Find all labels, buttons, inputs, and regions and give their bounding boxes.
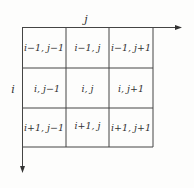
stencil-diagram: j i i−1, j−1 i−1, j i−1, j+1 i, j−1 i, j…	[0, 0, 194, 188]
cell-label: i, j−1	[34, 83, 60, 94]
cell-label: i, j	[81, 83, 93, 94]
cell-label: i−1, j−1	[24, 42, 64, 53]
cell-label: i+1, j−1	[24, 122, 64, 133]
i-axis-label: i	[11, 83, 15, 96]
cell-label: i+1, j	[74, 120, 100, 131]
cell-label: i−1, j+1	[111, 42, 151, 53]
j-axis-label: j	[81, 13, 88, 26]
cell-label: i−1, j	[74, 42, 100, 53]
cell-label: i, j+1	[118, 83, 144, 94]
cell-label: i+1, j+1	[111, 122, 151, 133]
j-axis-arrow	[22, 25, 182, 30]
